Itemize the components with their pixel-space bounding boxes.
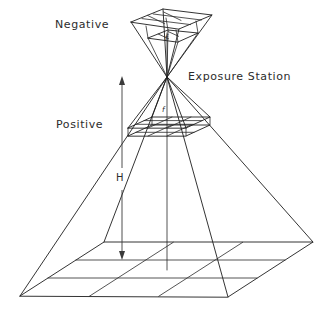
- label-flying-height: H: [116, 172, 124, 183]
- label-exposure-station: Exposure Station: [188, 70, 291, 83]
- label-focal-length-positive: f: [162, 105, 165, 114]
- positive-plane-bottom: [128, 125, 210, 136]
- arrow-up-icon: [119, 76, 125, 85]
- label-positive: Positive: [56, 118, 103, 131]
- label-focal-length-negative: f: [165, 33, 168, 42]
- flying-height-dimension: [119, 76, 125, 260]
- negative-frustum: [131, 9, 212, 77]
- negative-plane-bottom: [148, 30, 198, 42]
- arrow-down-icon: [119, 251, 125, 260]
- negative-plane-top: [131, 9, 212, 29]
- projection-rays-to-ground: [20, 77, 313, 297]
- ground-plane: [20, 242, 313, 297]
- negative-cone-edges: [131, 9, 212, 77]
- photogrammetry-diagram: Negative Positive Exposure Station f f H: [0, 0, 332, 317]
- positive-frustum: [20, 77, 313, 297]
- diagram-canvas: [0, 0, 332, 317]
- label-negative: Negative: [55, 18, 109, 31]
